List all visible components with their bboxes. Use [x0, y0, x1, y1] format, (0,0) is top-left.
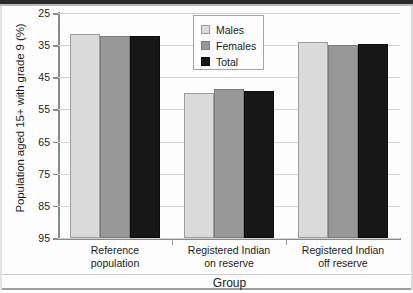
y-tick-label-75: 45: [38, 71, 50, 83]
y-tick-label-35: 85: [38, 200, 50, 212]
category-label-line: population: [58, 257, 172, 270]
y-axis-title: Population aged 15+ with grade 9 (%): [14, 3, 26, 233]
figure-left-edge: [0, 6, 2, 290]
bar-females-group-1: [100, 36, 130, 239]
legend-label-total: Total: [216, 56, 238, 68]
y-tick-label-85: 35: [38, 39, 50, 51]
y-tick-mark-45: [53, 174, 58, 176]
legend-entry-males: Males: [201, 22, 263, 37]
bar-females-group-2: [214, 89, 244, 238]
x-category-label-2: Registered Indianon reserve: [172, 244, 286, 269]
y-tick-mark-95: [53, 13, 58, 15]
x-category-label-1: Referencepopulation: [58, 244, 172, 269]
x-axis-title: Group: [58, 276, 401, 290]
y-tick-mark-65: [53, 109, 58, 111]
bar-total-group-3: [358, 44, 388, 238]
legend-swatch-males-icon: [201, 25, 210, 34]
legend-label-females: Females: [216, 40, 256, 52]
y-tick-mark-25: [53, 238, 58, 240]
x-group-separator-2: [286, 239, 287, 245]
bar-females-group-3: [328, 45, 358, 238]
x-group-separator-1: [172, 239, 173, 245]
category-label-line: Registered Indian: [286, 244, 400, 257]
figure-bottom-rule-upper: [2, 274, 411, 275]
y-tick-mark-75: [53, 77, 58, 79]
category-label-line: off reserve: [286, 257, 400, 270]
bar-males-group-3: [298, 42, 328, 238]
bar-males-group-2: [184, 93, 214, 238]
category-label-line: on reserve: [172, 257, 286, 270]
y-tick-label-65: 55: [38, 103, 50, 115]
bar-total-group-1: [130, 36, 160, 239]
y-tick-label-95: 25: [38, 7, 50, 19]
legend-swatch-total-icon: [201, 57, 210, 66]
y-tick-label-25: 95: [38, 232, 50, 244]
chart-legend: Males Females Total: [193, 15, 264, 70]
y-tick-mark-35: [53, 206, 58, 208]
scan-top-band-shadow: [0, 4, 413, 6]
bar-chart-figure: Population aged 15+ with grade 9 (%) 958…: [0, 0, 413, 293]
bar-males-group-1: [70, 34, 100, 238]
legend-swatch-females-icon: [201, 41, 210, 50]
legend-label-males: Males: [216, 24, 244, 36]
y-tick-label-55: 65: [38, 136, 50, 148]
legend-entry-females: Females: [201, 38, 263, 53]
x-category-label-3: Registered Indianoff reserve: [286, 244, 400, 269]
y-tick-label-45: 75: [38, 168, 50, 180]
gridline-95: [58, 13, 400, 14]
category-label-line: Reference: [58, 244, 172, 257]
y-tick-mark-55: [53, 142, 58, 144]
legend-entry-total: Total: [201, 54, 263, 69]
y-tick-mark-85: [53, 45, 58, 47]
gridline-25: [58, 238, 400, 239]
bar-total-group-2: [244, 91, 274, 238]
category-label-line: Registered Indian: [172, 244, 286, 257]
